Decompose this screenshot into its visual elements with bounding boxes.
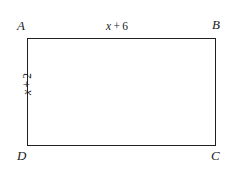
vertex-label-d: D <box>17 149 27 162</box>
side-left-operator: + <box>21 79 33 90</box>
rectangle-abcd <box>27 38 216 146</box>
side-length-label-top: x + 6 <box>106 20 128 32</box>
side-length-label-left: x + 2 <box>21 67 33 101</box>
vertex-label-a: A <box>17 19 25 32</box>
side-top-operator: + <box>111 20 122 32</box>
vertex-label-c: C <box>211 149 220 162</box>
vertex-label-b: B <box>212 18 220 31</box>
side-top-constant: 6 <box>122 20 128 32</box>
rectangle-figure: A B C D x + 6 x + 2 <box>0 0 232 175</box>
side-left-constant: 2 <box>21 73 33 79</box>
side-left-variable: x <box>21 90 33 95</box>
